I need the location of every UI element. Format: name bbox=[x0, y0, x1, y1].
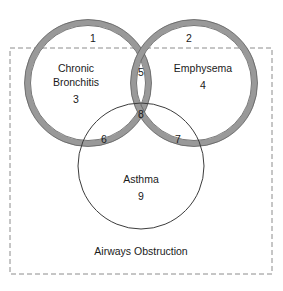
set-label-chronic-bronchitis-line2: Bronchitis bbox=[53, 76, 99, 88]
venn-diagram-figure: 1 2 5 8 6 7 Chronic Bronchitis 3 Emphyse… bbox=[0, 0, 283, 291]
region-label-3: 3 bbox=[73, 93, 79, 105]
set-label-emphysema: Emphysema bbox=[174, 62, 233, 74]
venn-diagram-canvas: 1 2 5 8 6 7 Chronic Bronchitis 3 Emphyse… bbox=[0, 0, 283, 291]
region-label-4: 4 bbox=[200, 79, 206, 91]
region-label-8: 8 bbox=[138, 108, 144, 120]
region-label-6: 6 bbox=[101, 133, 107, 145]
region-label-9: 9 bbox=[138, 190, 144, 202]
set-label-asthma: Asthma bbox=[123, 173, 159, 185]
region-label-2: 2 bbox=[186, 32, 192, 44]
universe-label-airways-obstruction: Airways Obstruction bbox=[94, 245, 188, 257]
set-label-chronic-bronchitis-line1: Chronic bbox=[58, 62, 94, 74]
region-label-1: 1 bbox=[90, 32, 96, 44]
region-label-5: 5 bbox=[138, 66, 144, 78]
region-label-7: 7 bbox=[175, 133, 181, 145]
